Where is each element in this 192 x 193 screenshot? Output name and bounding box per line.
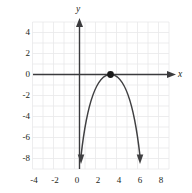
x-tick-label-8: 8 — [155, 176, 167, 185]
y-tick-label-2: 2 — [16, 49, 30, 58]
x-tick-label-0: 0 — [71, 176, 83, 185]
y-axis-label: y — [76, 5, 80, 14]
y-tick-label-neg6: -6 — [13, 133, 30, 142]
parabola-curve — [78, 75, 144, 165]
vertex-point-marker — [107, 71, 114, 78]
y-tick-label-neg2: -2 — [13, 91, 30, 100]
y-tick-label-neg4: -4 — [13, 112, 30, 121]
x-axis-label: x — [178, 70, 182, 79]
x-axis-arrow-icon — [167, 71, 176, 78]
y-tick-label-4: 4 — [16, 28, 30, 37]
x-tick-label-neg4: -4 — [28, 176, 40, 185]
x-tick-label-4: 4 — [113, 176, 125, 185]
parabola-graph-figure: -4 -2 0 2 4 6 8 4 2 0 -2 -4 -6 -8 x y — [0, 0, 192, 193]
left-branch-arrow-icon — [78, 155, 85, 165]
x-tick-label-6: 6 — [134, 176, 146, 185]
x-tick-label-2: 2 — [92, 176, 104, 185]
y-tick-label-neg8: -8 — [13, 154, 30, 163]
grid-lines — [33, 22, 170, 169]
x-tick-label-neg2: -2 — [49, 176, 61, 185]
y-tick-label-0: 0 — [16, 70, 30, 79]
y-axis-arrow-icon — [76, 18, 83, 27]
